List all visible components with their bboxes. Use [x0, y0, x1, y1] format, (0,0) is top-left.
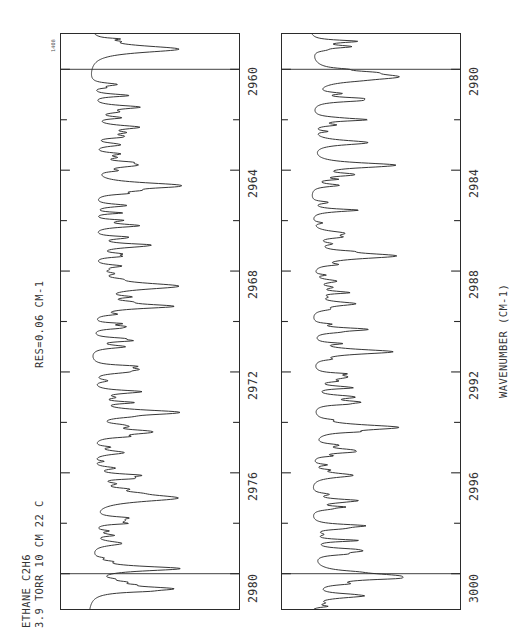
spectrum-figure: 1408 ETHANE C2H6 3.9 TORR 10 CM 22 C RES… [0, 0, 522, 642]
axis-tick-label: 2980 [467, 67, 481, 96]
axis-tick-label: 2964 [246, 168, 260, 197]
upper-spectrum-plot [61, 34, 239, 609]
axis-tick-label: 2960 [246, 67, 260, 96]
upper-spectrum-panel [60, 33, 240, 610]
axis-tick-label: 2972 [246, 371, 260, 400]
lower-spectrum-panel [281, 33, 461, 610]
axis-tick-label: 3000 [467, 573, 481, 602]
axis-tick-label: 2984 [467, 168, 481, 197]
header-line-resolution: RES=0.06 CM-1 [33, 281, 45, 368]
header-line-title: ETHANE C2H6 [20, 554, 32, 628]
header-line-conditions: 3.9 TORR 10 CM 22 C [33, 500, 45, 628]
axis-tick-label: 2996 [467, 472, 481, 501]
axis-tick-label: 2968 [246, 270, 260, 299]
lower-spectrum-plot [282, 34, 460, 609]
axis-tick-label: 2980 [246, 573, 260, 602]
axis-tick-label: 2988 [467, 270, 481, 299]
figure-corner-code: 1408 [50, 39, 56, 52]
axis-tick-label: 2976 [246, 472, 260, 501]
x-axis-title: WAVENUMBER (CM-1) [497, 284, 509, 398]
axis-tick-label: 2992 [467, 371, 481, 400]
